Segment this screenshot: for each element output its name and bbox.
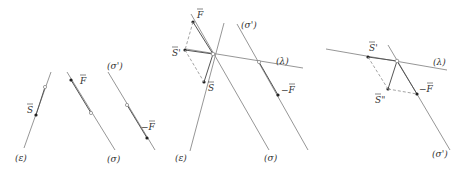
label-vec-S-double-prime: S" [375, 95, 385, 105]
label-line-epsilon: (ε) [175, 153, 187, 163]
vector-diagram: S (ε) F (σ) −F (σ') F [0, 0, 466, 171]
label-vec-F: F [196, 10, 204, 20]
label-vec-F: F [79, 76, 87, 86]
label-line-sigma: (σ) [264, 153, 278, 163]
vector-S-arrow [36, 87, 45, 115]
vector-F-arrow [193, 22, 213, 54]
label-line-sigma-prime: (σ') [107, 61, 123, 71]
construction-dash [368, 57, 388, 89]
vector-minus-F-arrow [259, 62, 278, 95]
construction-dash [185, 50, 204, 82]
label-line-sigma-prime: (σ') [432, 149, 448, 159]
label-vec-minus-F: −F [281, 85, 296, 95]
construction-dash [185, 22, 193, 50]
origin-point [211, 52, 215, 56]
panel-1: S (ε) F (σ) −F (σ') [15, 61, 156, 164]
origin-point [89, 111, 92, 114]
origin-point [43, 85, 46, 88]
panel-2: F S S' −F (σ') (λ) (ε) (σ) [172, 9, 308, 163]
vector-F-tip [69, 78, 72, 81]
label-line-lambda: (λ) [433, 57, 446, 67]
line-sigma-prime [237, 24, 308, 150]
label-vec-minus-F: −F [419, 84, 434, 94]
label-vec-S: S [27, 105, 33, 115]
vector-S-double-prime-arrow [388, 61, 397, 89]
panel-3: S' S" −F (λ) (σ') [326, 42, 450, 159]
origin-point [125, 103, 128, 106]
vector-S-prime-arrow [368, 57, 397, 61]
label-line-lambda: (λ) [276, 56, 289, 66]
label-vec-minus-F: −F [141, 122, 156, 132]
vector-minus-F-tip [145, 136, 148, 139]
vector-S-prime-arrow [185, 50, 213, 54]
intersection-point [257, 60, 260, 63]
vector-minus-F-arrow [397, 61, 417, 94]
construction-dash [388, 89, 417, 94]
label-vec-S-prime: S' [172, 48, 181, 58]
label-line-sigma: (σ) [107, 154, 121, 164]
label-line-sigma-prime: (σ') [241, 20, 257, 30]
label-line-epsilon: (ε) [15, 153, 27, 163]
vector-S-tip [34, 113, 37, 116]
label-vec-S-prime: S' [369, 43, 378, 53]
vector-minus-F-tip [276, 93, 279, 96]
origin-point [395, 59, 399, 63]
label-vec-S: S [208, 83, 214, 93]
